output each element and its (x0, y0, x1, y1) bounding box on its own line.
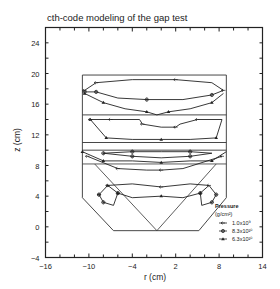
y-tick-label: 16 (31, 100, 39, 109)
legend-label: 6.3x10¹⁰ (232, 236, 253, 242)
contour-line (83, 90, 224, 102)
x-axis: −16−10−42814 (39, 28, 267, 271)
legend-label: 1.0x10⁹ (232, 220, 251, 226)
contour-line (83, 92, 224, 115)
y-tick-label: 0 (35, 223, 39, 232)
y-tick-label: −4 (31, 254, 40, 263)
y-tick-label: 20 (31, 70, 39, 79)
x-tick-label: 8 (217, 262, 221, 271)
x-tick-label: 2 (174, 262, 178, 271)
contour-line (106, 184, 209, 198)
legend-units: (g/cm²) (215, 211, 233, 217)
contour-line (101, 150, 212, 159)
legend-title: Pressure (215, 203, 239, 209)
contour-line (83, 78, 226, 91)
legend-label: 8.3x10¹⁰ (232, 228, 253, 234)
legend-entry: 8.3x10¹⁰ (219, 228, 253, 234)
y-tick-label: 8 (35, 162, 39, 171)
x-tick-label: −10 (83, 262, 96, 271)
y-tick-label: 4 (35, 192, 39, 201)
x-tick-label: −16 (39, 262, 52, 271)
legend-entry: 1.0x10⁹ (219, 220, 251, 226)
x-tick-label: −4 (128, 262, 137, 271)
x-axis-label: r (cm) (144, 272, 166, 282)
y-tick-label: 24 (31, 39, 39, 48)
chart-figure: cth-code modeling of the gap test −16−10… (0, 0, 280, 289)
y-axis-label: z (cm) (12, 128, 22, 152)
y-tick-label: 12 (31, 131, 39, 140)
chart-title: cth-code modeling of the gap test (47, 12, 188, 23)
pressure-contours (81, 78, 227, 205)
legend: Pressure (g/cm²) 1.0x10⁹8.3x10¹⁰6.3x10¹⁰ (215, 203, 253, 242)
contour-line (88, 118, 222, 128)
legend-entry: 6.3x10¹⁰ (219, 236, 253, 242)
contour-line (89, 118, 222, 141)
y-axis: −404812162024 (31, 28, 263, 263)
x-tick-label: 14 (258, 262, 266, 271)
